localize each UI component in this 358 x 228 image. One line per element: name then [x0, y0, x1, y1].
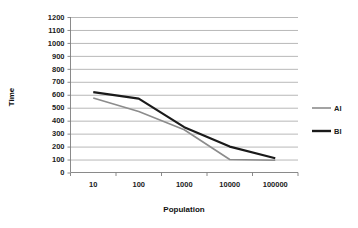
legend-label-bi: BI — [334, 127, 342, 136]
y-tick-label: 0 — [60, 168, 64, 177]
y-axis-title: Time — [7, 87, 16, 106]
y-tick-label: 1200 — [48, 13, 65, 22]
y-tick-label: 200 — [52, 142, 65, 151]
y-tick-label: 700 — [52, 77, 65, 86]
y-tick-label: 300 — [52, 129, 65, 138]
y-tick-label: 100 — [52, 155, 65, 164]
y-tick-label: 600 — [52, 90, 65, 99]
legend-label-ai: AI — [334, 104, 342, 113]
x-tick-label: 100 — [132, 180, 145, 189]
y-tick-label: 900 — [52, 52, 65, 61]
y-tick-label: 1100 — [48, 26, 64, 35]
x-axis-title: Population — [163, 205, 204, 214]
y-tick-label: 800 — [52, 65, 65, 74]
x-tick-label: 10000 — [219, 180, 240, 189]
y-tick-label: 400 — [52, 116, 65, 125]
x-tick-label: 10 — [89, 180, 97, 189]
y-tick-label: 1000 — [48, 39, 65, 48]
y-tick-label: 500 — [52, 103, 65, 112]
x-tick-label: 1000 — [176, 180, 193, 189]
chart-canvas: 0100200300400500600700800900100011001200… — [0, 0, 358, 228]
x-tick-label: 100000 — [263, 180, 288, 189]
line-chart: 0100200300400500600700800900100011001200… — [0, 0, 358, 228]
